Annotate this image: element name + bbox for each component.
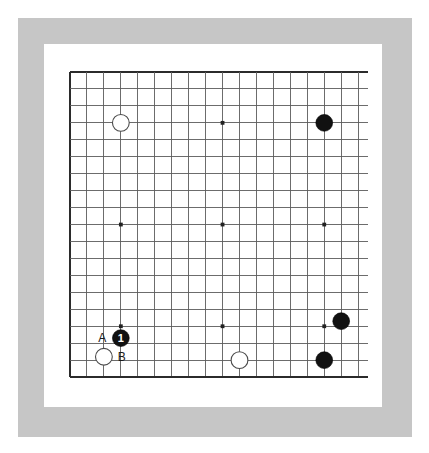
stone-disc-white[interactable] xyxy=(96,348,113,365)
star-point xyxy=(322,324,326,328)
star-point xyxy=(221,324,225,328)
label-b: B xyxy=(118,350,126,364)
stone-black[interactable] xyxy=(316,114,333,131)
stone-disc-white[interactable] xyxy=(231,352,248,369)
stone-black[interactable]: 1 xyxy=(112,330,129,347)
stone-disc-black[interactable] xyxy=(316,352,333,369)
stone-disc-white[interactable] xyxy=(112,114,129,131)
star-point xyxy=(322,223,326,227)
star-point xyxy=(221,121,225,125)
outer-frame: 1 AB xyxy=(18,18,412,437)
star-point xyxy=(119,223,123,227)
go-board[interactable]: 1 AB xyxy=(62,64,368,386)
inner-white-mat: 1 AB xyxy=(44,44,382,407)
stone-black[interactable] xyxy=(316,352,333,369)
stone-move-number: 1 xyxy=(118,332,124,344)
go-board-svg[interactable]: 1 AB xyxy=(62,64,368,386)
star-point xyxy=(221,223,225,227)
stone-white[interactable] xyxy=(112,114,129,131)
go-diagram-figure: 1 AB xyxy=(0,0,429,453)
stone-disc-black[interactable] xyxy=(333,313,350,330)
star-point xyxy=(119,324,123,328)
stone-black[interactable] xyxy=(333,313,350,330)
stone-white[interactable] xyxy=(231,352,248,369)
label-a: A xyxy=(98,331,106,345)
stone-disc-black[interactable] xyxy=(316,114,333,131)
stone-white[interactable] xyxy=(96,348,113,365)
